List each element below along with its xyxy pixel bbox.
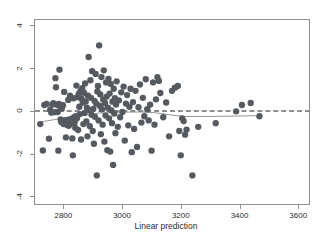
y-tick-label: -4 [15, 187, 24, 205]
scatter-point [98, 131, 104, 137]
scatter-point [109, 120, 115, 126]
scatter-point [138, 119, 144, 125]
scatter-point [115, 124, 121, 130]
scatter-point [148, 148, 154, 154]
x-tick-mark [181, 205, 182, 209]
x-tick-mark [63, 205, 64, 209]
scatter-point [143, 76, 149, 82]
x-tick-label: 2800 [43, 211, 83, 220]
scatter-point [178, 152, 184, 158]
scatter-point [176, 128, 182, 134]
scatter-point [101, 67, 107, 73]
scatter-point [150, 79, 156, 85]
scatter-point [189, 172, 195, 178]
scatter-point [99, 122, 105, 128]
scatter-point [156, 78, 162, 84]
scatter-point [113, 78, 119, 84]
scatter-point [70, 152, 76, 158]
scatter-point [63, 134, 69, 140]
scatter-point [175, 83, 181, 89]
scatter-point [69, 135, 75, 141]
scatter-point [153, 96, 159, 102]
scatter-point [95, 83, 101, 89]
y-tick-label: 0 [15, 102, 24, 120]
scatter-point [120, 83, 126, 89]
scatter-point [107, 148, 113, 154]
scatter-point [111, 110, 117, 116]
x-tick-mark [240, 205, 241, 209]
scatter-point [61, 89, 67, 95]
scatter-point [56, 67, 62, 73]
scatter-point [60, 102, 66, 108]
scatter-point [146, 117, 152, 123]
scatter-point [135, 104, 141, 110]
scatter-point [98, 74, 104, 80]
scatter-point [55, 148, 61, 154]
scatter-point [40, 147, 46, 153]
y-tick-mark [30, 68, 34, 69]
scatter-point [84, 133, 90, 139]
scatter-point [111, 86, 117, 92]
scatter-point [118, 89, 124, 95]
x-tick-label: 3000 [102, 211, 142, 220]
scatter-point [43, 101, 49, 107]
scatter-point [130, 99, 136, 105]
x-tick-mark [298, 205, 299, 209]
scatter-point [78, 136, 84, 142]
scatter-point [157, 90, 163, 96]
scatter-point [91, 141, 97, 147]
x-tick-mark [122, 205, 123, 209]
scatter-point [110, 162, 116, 168]
y-tick-mark [30, 154, 34, 155]
y-tick-label: 2 [15, 59, 24, 77]
scatter-point [163, 99, 169, 105]
scatter-point [195, 124, 201, 130]
scatter-point [239, 102, 245, 108]
y-tick-label: -2 [15, 145, 24, 163]
scatter-point [140, 95, 146, 101]
scatter-point [125, 122, 131, 128]
scatter-point [256, 113, 262, 119]
scatter-point [46, 135, 52, 141]
y-tick-label: 4 [15, 16, 24, 34]
scatter-point [92, 71, 98, 77]
scatter-point [75, 127, 81, 133]
scatter-point [85, 54, 91, 60]
scatter-point [213, 120, 219, 126]
scatter-point [52, 75, 58, 81]
scatter-point [73, 82, 79, 88]
y-tick-mark [30, 111, 34, 112]
scatter-point [132, 88, 138, 94]
plot-canvas [35, 20, 309, 204]
scatter-point [248, 100, 254, 106]
x-axis-title: Linear prediction [0, 221, 332, 231]
scatter-point [101, 138, 107, 144]
x-tick-label: 3600 [278, 211, 318, 220]
scatter-point [90, 128, 96, 134]
scatter-point [160, 114, 166, 120]
scatter-point [119, 109, 125, 115]
scatter-point [37, 121, 43, 127]
scatter-point [87, 77, 93, 83]
scatter-point [82, 80, 88, 86]
scatter-point [180, 118, 186, 124]
scatter-point [137, 81, 143, 87]
scatter-point [53, 84, 59, 90]
scatter-point [94, 172, 100, 178]
x-tick-label: 3200 [161, 211, 201, 220]
x-tick-label: 3400 [220, 211, 260, 220]
scatter-point [233, 108, 239, 114]
y-tick-mark [30, 196, 34, 197]
scatter-point [122, 137, 128, 143]
scatter-point [96, 42, 102, 48]
plot-frame [34, 19, 310, 205]
scatter-point [116, 97, 122, 103]
scatter-point [151, 122, 157, 128]
scatter-point [134, 144, 140, 150]
y-tick-mark [30, 25, 34, 26]
scatter-point [147, 101, 153, 107]
scatter-point [124, 92, 130, 98]
scatter-point [131, 126, 137, 132]
scatter-point [106, 90, 112, 96]
scatter-point [112, 130, 118, 136]
